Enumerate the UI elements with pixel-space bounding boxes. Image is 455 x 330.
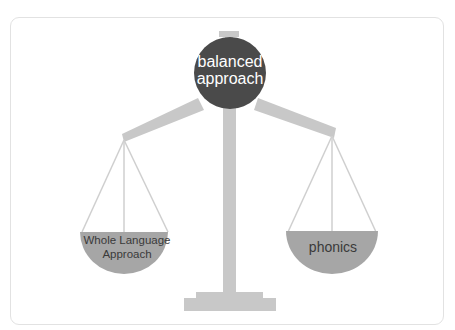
scale-post: [223, 100, 236, 295]
right-pan-label: phonics: [288, 239, 378, 255]
left-pan-label-line2: Approach: [72, 247, 182, 261]
scale-beam-right: [254, 98, 336, 138]
left-pan-label-line1: Whole Language: [72, 233, 182, 247]
scale-base: [184, 298, 276, 311]
balance-scale-graphic: [0, 0, 455, 330]
center-label-line2: approach: [185, 70, 275, 87]
center-label-line1: balanced: [185, 53, 275, 70]
center-label: balanced approach: [185, 53, 275, 87]
scale-beam-left: [122, 98, 204, 142]
left-pan-label: Whole Language Approach: [72, 233, 182, 261]
